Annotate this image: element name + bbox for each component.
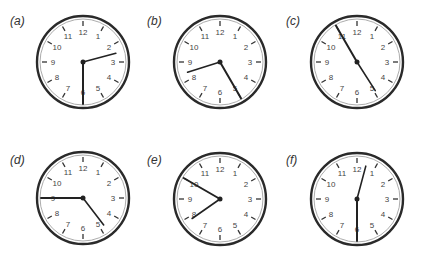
clock-number: 3 xyxy=(248,58,253,67)
clock-number: 10 xyxy=(53,43,62,52)
clock-number: 2 xyxy=(381,43,386,52)
clock-c: 121234567891011 xyxy=(311,16,403,108)
clock-number: 8 xyxy=(329,210,334,219)
clock-number: 4 xyxy=(244,210,249,219)
clock-number: 11 xyxy=(338,169,347,178)
clock-number: 7 xyxy=(203,221,208,230)
panel-label-e: (e) xyxy=(147,153,162,167)
clock-number: 7 xyxy=(340,84,345,93)
clock-number: 5 xyxy=(233,221,238,230)
clock-number: 11 xyxy=(64,168,73,177)
clock-number: 1 xyxy=(96,168,101,177)
clock-e: 121234567891011 xyxy=(174,153,266,245)
center-hub xyxy=(81,196,86,201)
panel-label-c: (c) xyxy=(286,14,300,28)
clock-number: 4 xyxy=(381,210,386,219)
clock-number: 7 xyxy=(203,84,208,93)
clock-number: 11 xyxy=(201,32,210,41)
clock-number: 2 xyxy=(381,180,386,189)
clock-number: 1 xyxy=(370,169,375,178)
clock-number: 1 xyxy=(233,32,238,41)
clock-number: 6 xyxy=(218,225,223,234)
clock-number: 7 xyxy=(66,84,71,93)
clock-number: 2 xyxy=(107,43,112,52)
clock-number: 10 xyxy=(327,180,336,189)
clock-number: 7 xyxy=(340,221,345,230)
center-hub xyxy=(355,197,360,202)
clock-number: 12 xyxy=(79,28,88,37)
clock-number: 3 xyxy=(111,194,116,203)
clock-b: 121234567891011 xyxy=(174,16,266,108)
clocks-canvas: 1212345678910111212345678910111212345678… xyxy=(0,0,422,264)
clock-number: 9 xyxy=(51,58,56,67)
clock-a: 121234567891011 xyxy=(37,16,129,108)
clock-number: 4 xyxy=(107,209,112,218)
clock-number: 6 xyxy=(218,88,223,97)
clock-number: 12 xyxy=(353,165,362,174)
clock-number: 3 xyxy=(248,195,253,204)
clock-number: 11 xyxy=(201,169,210,178)
clock-f: 121234567891011 xyxy=(311,153,403,245)
clock-number: 6 xyxy=(81,224,86,233)
clock-number: 3 xyxy=(111,58,116,67)
clock-number: 8 xyxy=(55,209,60,218)
clock-number: 5 xyxy=(370,221,375,230)
clock-number: 12 xyxy=(353,28,362,37)
clock-number: 4 xyxy=(107,73,112,82)
clock-number: 1 xyxy=(233,169,238,178)
clock-number: 1 xyxy=(96,32,101,41)
center-hub xyxy=(218,60,223,65)
clock-number: 9 xyxy=(188,195,193,204)
clock-number: 11 xyxy=(64,32,73,41)
clock-number: 4 xyxy=(381,73,386,82)
clock-number: 12 xyxy=(216,28,225,37)
clock-number: 7 xyxy=(66,220,71,229)
clock-number: 2 xyxy=(244,180,249,189)
center-hub xyxy=(81,60,86,65)
clock-d: 121234567891011 xyxy=(37,152,129,244)
panel-label-f: (f) xyxy=(286,153,297,167)
panel-label-d: (d) xyxy=(10,153,25,167)
clock-number: 12 xyxy=(79,164,88,173)
clock-number: 8 xyxy=(55,73,60,82)
panel-label-b: (b) xyxy=(147,14,162,28)
clock-number: 3 xyxy=(385,195,390,204)
clock-number: 9 xyxy=(325,58,330,67)
clock-number: 2 xyxy=(244,43,249,52)
clock-number: 9 xyxy=(325,195,330,204)
clock-number: 3 xyxy=(385,58,390,67)
clock-number: 4 xyxy=(244,73,249,82)
clock-number: 1 xyxy=(370,32,375,41)
clock-number: 10 xyxy=(327,43,336,52)
center-hub xyxy=(218,197,223,202)
center-hub xyxy=(355,60,360,65)
clock-number: 6 xyxy=(355,88,360,97)
clock-number: 12 xyxy=(216,165,225,174)
clock-number: 8 xyxy=(192,73,197,82)
clock-number: 5 xyxy=(96,84,101,93)
panel-label-a: (a) xyxy=(10,14,25,28)
clock-number: 10 xyxy=(190,43,199,52)
clock-number: 9 xyxy=(188,58,193,67)
clock-number: 2 xyxy=(107,179,112,188)
clock-number: 10 xyxy=(53,179,62,188)
clock-number: 8 xyxy=(329,73,334,82)
